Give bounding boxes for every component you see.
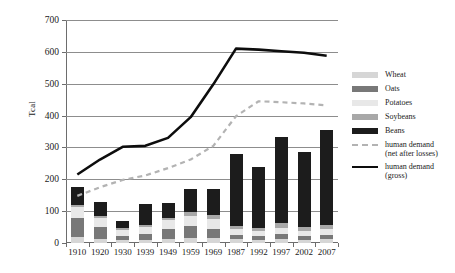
solid-line-swatch [352,166,378,168]
line-series-group [66,20,338,243]
line-solid [77,49,326,175]
x-tick-label: 1987 [227,247,245,257]
line-dashed [77,101,326,196]
x-tick-mark [225,243,226,247]
x-tick-mark [247,243,248,247]
soybeans-swatch [352,114,378,120]
potatoes-swatch [352,100,378,106]
y-tick-label: 300 [45,142,59,152]
chart-legend: WheatOatsPotatoesSoybeansBeanshuman dema… [352,70,452,183]
legend-label: Potatoes [385,98,412,107]
x-tick-label: 1959 [182,247,200,257]
x-tick-mark [134,243,135,247]
dashed-line-swatch [352,144,378,146]
x-tick-label: 1949 [159,247,177,257]
legend-item[interactable]: human demand (net after losses) [352,140,452,159]
x-tick-mark [270,243,271,247]
x-tick-mark [338,243,339,247]
x-tick-label: 1939 [136,247,154,257]
legend-item[interactable]: Potatoes [352,98,452,107]
legend-label: Wheat [385,70,406,79]
legend-item[interactable]: human demand (gross) [352,162,452,181]
legend-item[interactable]: Beans [352,126,452,135]
y-axis-title: Tcal [27,79,37,139]
plot-area: 0100200300400500600700 19101920193019391… [66,20,338,243]
legend-label: Beans [385,126,405,135]
x-tick-mark [315,243,316,247]
stacked-bar-chart: Tcal 0100200300400500600700 191019201930… [0,0,455,273]
x-tick-mark [111,243,112,247]
legend-item[interactable]: Oats [352,84,452,93]
y-tick-label: 600 [45,47,59,57]
y-tick-label: 400 [45,111,59,121]
legend-label: human demand (net after losses) [385,140,438,159]
x-tick-mark [202,243,203,247]
y-tick-label: 100 [45,206,59,216]
x-tick-label: 1997 [272,247,290,257]
legend-item[interactable]: Wheat [352,70,452,79]
x-tick-mark [89,243,90,247]
x-tick-mark [66,243,67,247]
x-tick-mark [179,243,180,247]
x-tick-mark [293,243,294,247]
x-tick-label: 1930 [114,247,132,257]
y-tick-label: 200 [45,174,59,184]
legend-label: Oats [385,84,400,93]
x-tick-label: 1992 [250,247,268,257]
x-tick-label: 1920 [91,247,109,257]
legend-item[interactable]: Soybeans [352,112,452,121]
x-tick-label: 2002 [295,247,313,257]
y-tick-label: 0 [54,238,59,248]
x-tick-label: 2007 [318,247,336,257]
x-tick-mark [157,243,158,247]
oats-swatch [352,86,378,92]
y-tick-label: 700 [45,15,59,25]
x-tick-label: 1910 [68,247,86,257]
wheat-swatch [352,72,378,78]
y-tick-label: 500 [45,79,59,89]
legend-label: Soybeans [385,112,416,121]
beans-swatch [352,128,378,134]
x-tick-label: 1969 [204,247,222,257]
legend-label: human demand (gross) [385,162,434,181]
